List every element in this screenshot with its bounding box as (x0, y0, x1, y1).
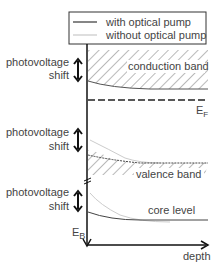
shift-annotation-1: photovoltage shift (6, 56, 82, 81)
legend-with-pump: with optical pump (105, 16, 191, 28)
conduction-band-label: conduction band (128, 60, 209, 72)
fermi-label: EF (196, 104, 208, 119)
svg-text:photovoltage: photovoltage (6, 126, 69, 138)
legend: with optical pump without optical pump (69, 12, 206, 44)
svg-text:shift: shift (49, 200, 69, 212)
core-level-label: core level (148, 204, 195, 216)
shift-annotation-2: photovoltage shift (6, 126, 82, 152)
svg-text:shift: shift (49, 140, 69, 152)
legend-without-pump: without optical pump (105, 29, 206, 41)
band-diagram: with optical pump without optical pump c… (0, 0, 221, 268)
valence-band-label: valence band (136, 168, 201, 180)
depth-label: depth (183, 250, 211, 262)
svg-text:photovoltage: photovoltage (6, 56, 69, 68)
svg-text:photovoltage: photovoltage (6, 186, 69, 198)
binding-energy-label: EB (72, 226, 85, 241)
shift-annotation-3: photovoltage shift (6, 186, 82, 212)
svg-text:shift: shift (49, 69, 69, 81)
